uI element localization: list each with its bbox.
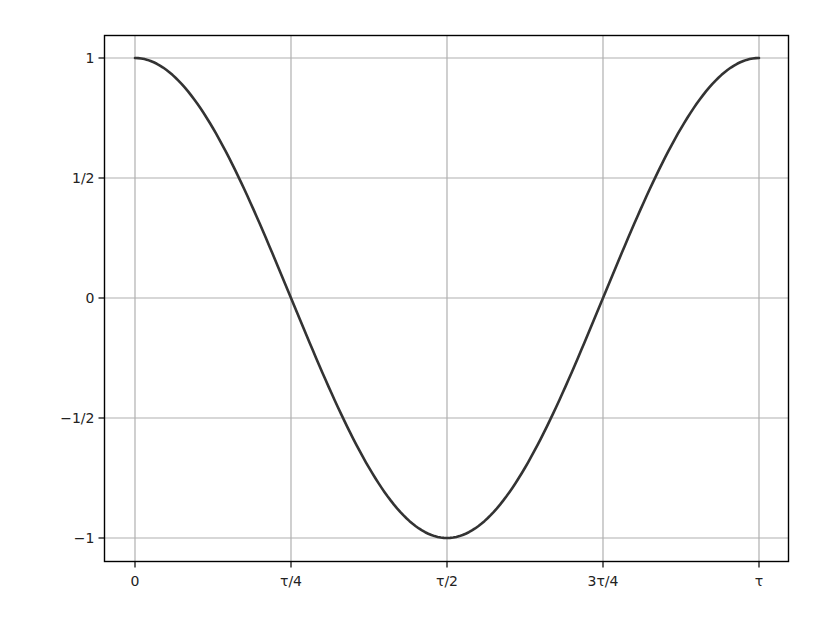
y-tick-label: −1	[74, 530, 95, 546]
chart-canvas: 0τ/4τ/23τ/4τ 11/20−1/2−1	[0, 0, 829, 620]
y-tick-label: 1	[86, 50, 95, 66]
y-tick-label: −1/2	[60, 410, 94, 426]
x-tick-label: τ/2	[436, 573, 458, 589]
x-axis-ticks: 0τ/4τ/23τ/4τ	[131, 562, 764, 589]
y-tick-label: 0	[86, 290, 95, 306]
y-axis-ticks: 11/20−1/2−1	[60, 50, 104, 546]
grid-lines	[105, 36, 789, 562]
x-tick-label: τ/4	[280, 573, 302, 589]
x-tick-label: τ	[755, 573, 763, 589]
x-tick-label: 3τ/4	[588, 573, 619, 589]
y-tick-label: 1/2	[72, 170, 95, 186]
x-tick-label: 0	[131, 573, 140, 589]
